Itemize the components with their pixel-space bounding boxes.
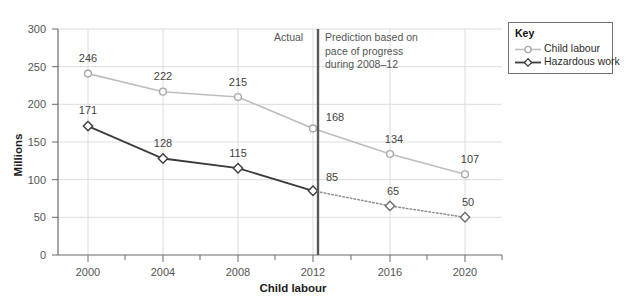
- data-label-hazardous-work: 115: [229, 147, 247, 159]
- data-label-hazardous-work: 85: [326, 171, 338, 183]
- annotation-prediction-line-3: during 2008–12: [325, 58, 437, 72]
- x-tick-label: 2004: [151, 266, 175, 278]
- y-tick-label: 0: [40, 249, 46, 261]
- legend-title: Key: [515, 27, 607, 40]
- y-tick-label: 100: [28, 174, 46, 186]
- annotation-actual-text: Actual: [274, 31, 303, 43]
- y-axis-title: Millions: [12, 134, 24, 177]
- x-tick-label: 2000: [76, 266, 100, 278]
- data-label-child-labour: 107: [461, 153, 479, 165]
- legend: Key Child labour Hazardous work: [508, 22, 613, 74]
- annotation-actual: Actual: [274, 31, 303, 45]
- x-axis-ticks: [88, 255, 502, 262]
- data-label-hazardous-work: 65: [387, 185, 399, 197]
- annotation-prediction-line-2: pace of progress: [325, 45, 437, 59]
- data-label-child-labour: 134: [385, 133, 403, 145]
- y-axis-ticks: [52, 29, 58, 255]
- data-label-child-labour: 168: [326, 111, 344, 123]
- data-label-child-labour: 222: [154, 70, 172, 82]
- x-tick-label: 2020: [453, 266, 477, 278]
- data-label-hazardous-work: 171: [79, 104, 97, 116]
- y-tick-label: 300: [28, 23, 46, 35]
- legend-marker-diamond-icon: [515, 56, 541, 67]
- data-label-hazardous-work: 50: [462, 196, 474, 208]
- annotation-prediction: Prediction based on pace of progress dur…: [325, 31, 437, 72]
- annotation-prediction-line-1: Prediction based on: [325, 31, 437, 45]
- y-tick-label: 150: [28, 136, 46, 148]
- x-tick-label: 2008: [226, 266, 250, 278]
- x-axis-title: Child labour: [259, 282, 327, 294]
- x-tick-label: 2016: [378, 266, 402, 278]
- legend-label-child-labour: Child labour: [544, 42, 600, 55]
- legend-marker-circle-icon: [515, 43, 541, 54]
- chart-container: 300 250 200 150 100 50 0 2000 2004 2008 …: [0, 0, 628, 298]
- legend-item-child-labour: Child labour: [515, 42, 607, 55]
- data-label-child-labour: 246: [79, 52, 97, 64]
- legend-item-hazardous-work: Hazardous work: [515, 55, 607, 68]
- x-tick-label: 2012: [301, 266, 325, 278]
- y-tick-label: 50: [34, 211, 46, 223]
- data-label-child-labour: 215: [229, 76, 247, 88]
- data-label-hazardous-work: 128: [154, 137, 172, 149]
- y-tick-label: 250: [28, 61, 46, 73]
- legend-label-hazardous-work: Hazardous work: [544, 55, 620, 68]
- y-tick-label: 200: [28, 98, 46, 110]
